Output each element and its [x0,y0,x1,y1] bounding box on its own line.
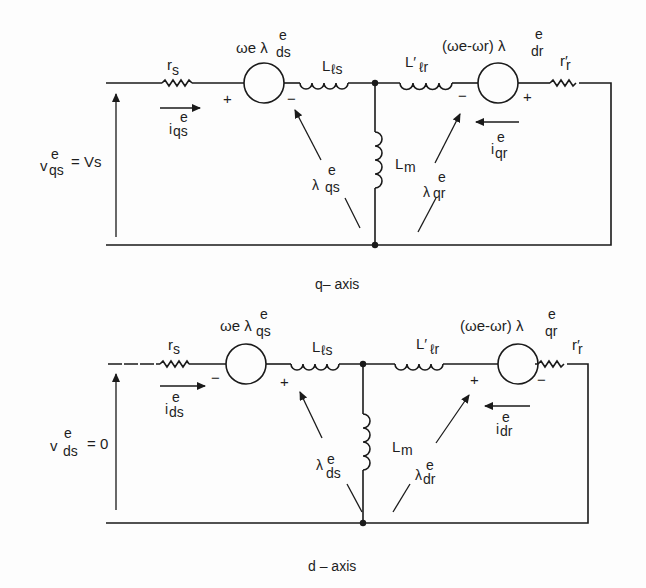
q-stator-emf-sub: ds [276,45,291,59]
d-stator-flux-sup: e [327,452,335,466]
q-node-top [372,80,378,86]
d-stator-flux-sym: λ [316,458,323,472]
d-rotor-emf-plus: + [470,372,479,387]
d-stator-flux-arrow [300,392,322,438]
q-rotor-emf-sup: e [535,27,543,41]
q-stator-resistor [162,80,192,86]
d-rotor-emf-minus: − [537,372,546,387]
q-voltage-sym: v [40,158,48,173]
q-node-bottom [372,242,378,248]
q-axis-circuit [106,63,611,248]
q-wire-return [106,83,611,245]
d-rotor-emf-prefix: (ωe-ωr) λ [460,318,523,333]
d-rotor-emf-sup: e [548,307,556,321]
q-rotor-leakage-inductor [400,83,452,90]
q-is-sup: e [180,110,188,124]
d-lm-sym: L [392,439,400,454]
d-lls-sym: L [312,339,320,354]
d-stator-emf-sub: qs [256,324,271,338]
q-stator-emf-source [244,63,284,103]
q-is-sub: qs [173,124,188,138]
d-rs-sub: s [173,342,180,356]
q-voltage-sub: qs [49,163,64,177]
d-stator-emf-plus: + [280,374,289,389]
q-rotor-resistor [550,80,576,86]
q-stator-emf-plus: + [223,91,232,106]
q-lls-sub: ℓs [331,62,343,76]
q-voltage-sup: e [51,147,59,161]
d-axis-caption: d – axis [308,558,356,574]
q-rotor-emf-prefix: (ωe-ωr) λ [442,38,505,53]
d-wire-return [106,364,588,523]
d-stator-emf-prefix: ωe λ [220,318,252,333]
d-is-sup: e [172,390,180,404]
q-stator-flux-sym: λ [312,178,319,192]
d-voltage-value: = 0 [87,436,108,451]
d-node-bottom [360,520,366,526]
q-llr-sub: ℓr [419,60,428,74]
q-rr-sub: r [566,58,571,72]
d-rotor-emf-source [498,344,538,384]
q-is-sym: i [169,122,172,136]
d-voltage-sup: e [64,426,72,440]
q-axis-caption: q– axis [315,276,359,292]
q-lls-sym: L [322,58,330,73]
d-voltage-sym: v [50,438,58,453]
q-rotor-flux-sub: qr [433,186,445,200]
d-stator-emf-sup: e [260,307,268,321]
d-stator-flux-sub: ds [326,466,341,480]
q-rotor-emf-plus: + [523,89,532,104]
d-llr-sym: L′ [416,336,427,351]
d-rotor-flux-sym: λ [415,468,422,482]
q-llr-sym: L′ [405,54,416,69]
d-rotor-flux-sub: dr [423,472,435,486]
circuit-drawing [0,0,646,588]
d-voltage-sub: ds [63,444,78,458]
q-rotor-flux-sym: λ [423,185,430,199]
q-ir-sup: e [497,130,505,144]
q-stator-flux-arrow [295,110,321,160]
q-stator-emf-sup: e [279,28,287,42]
q-rotor-emf-sub: dr [531,44,543,58]
d-stator-emf-source [226,344,266,384]
d-ir-sub: dr [500,424,512,438]
q-stator-flux-sub: qs [325,180,340,194]
d-node-top [360,361,366,367]
q-rotor-emf-minus: − [458,88,467,103]
q-stator-emf-prefix: ωe λ [236,40,268,55]
q-magnetizing-inductor [375,132,382,188]
q-ir-sym: i [491,142,494,156]
q-voltage-value: = Vs [71,154,101,169]
d-ir-sym: i [496,422,499,436]
d-lm-sub: m [401,443,413,457]
d-stator-resistor [160,361,189,367]
d-rotor-leakage-inductor [395,364,443,370]
d-ir-sup: e [502,410,510,424]
d-magnetizing-inductor [363,414,370,470]
d-rotor-flux-arrow [436,395,469,443]
q-lm-sub: m [404,160,416,174]
q-stator-leakage-inductor [300,83,348,89]
q-rotor-flux-arrow [435,114,460,163]
d-stator-leakage-inductor [291,364,339,370]
d-lls-sub: ℓs [321,343,333,357]
d-rr-sub: r [578,342,583,356]
d-rotor-resistor [538,361,564,367]
d-is-sym: i [165,402,168,416]
d-is-sub: ds [169,405,184,419]
q-lm-sym: L [395,156,403,171]
q-stator-emf-minus: − [287,91,296,106]
d-rotor-emf-sub: qr [545,324,557,338]
d-stator-emf-minus: − [211,370,220,385]
d-rotor-flux-sup: e [426,458,434,472]
q-rotor-emf-source [478,63,518,103]
d-llr-sub: ℓr [430,342,439,356]
q-rs-sub: s [172,63,179,77]
q-stator-flux-sup: e [328,163,336,177]
d-axis-circuit [106,344,588,526]
dq-equivalent-circuit-diagram: v e qs = Vs r s ωe λ e ds + − e i qs L ℓ… [0,0,646,588]
q-ir-sub: qr [495,146,507,160]
q-rotor-flux-sup: e [438,170,446,184]
